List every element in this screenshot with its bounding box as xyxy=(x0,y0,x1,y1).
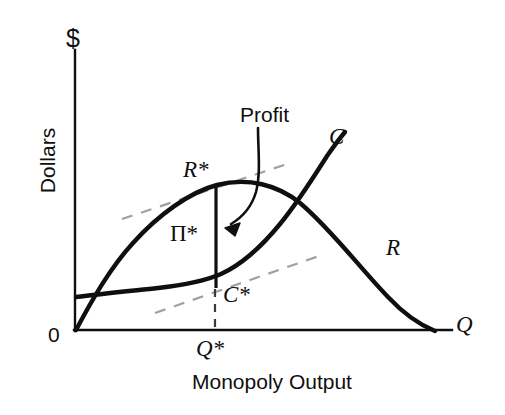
monopoly-profit-diagram: $ Dollars Monopoly Output 0 Q Q* R* C* Π… xyxy=(0,0,505,415)
revenue-at-optimum-label: R* xyxy=(183,158,209,181)
x-axis-title: Monopoly Output xyxy=(192,371,352,392)
profit-gap-label: Π* xyxy=(170,222,198,245)
cost-curve-label: C xyxy=(329,125,344,148)
profit-callout-label: Profit xyxy=(240,104,289,125)
chart-canvas xyxy=(0,0,505,415)
origin-label: 0 xyxy=(48,324,60,345)
y-axis-title: Dollars xyxy=(37,111,58,211)
cost-at-optimum-label: C* xyxy=(223,283,250,306)
cost-curve xyxy=(76,132,345,297)
revenue-curve xyxy=(76,182,435,331)
profit-callout-arrow xyxy=(231,128,259,224)
revenue-curve-label: R xyxy=(386,236,400,259)
x-axis-symbol: Q xyxy=(456,313,473,336)
y-axis-unit-symbol: $ xyxy=(66,26,80,51)
profit-callout-arrowhead xyxy=(225,223,240,236)
optimal-quantity-label: Q* xyxy=(196,337,224,360)
